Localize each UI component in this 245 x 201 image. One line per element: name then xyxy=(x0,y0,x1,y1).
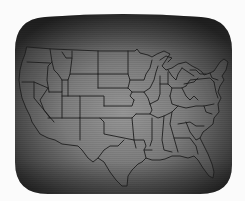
photo-background xyxy=(0,0,245,201)
crt-screen xyxy=(0,0,245,201)
